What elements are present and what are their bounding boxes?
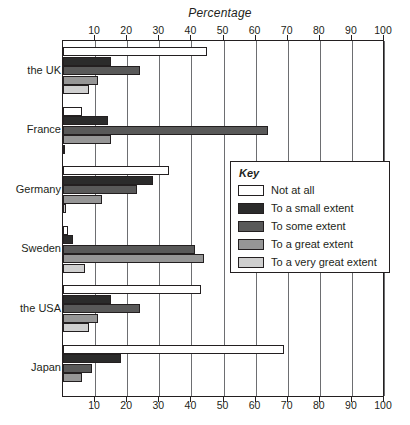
x-axis-tick: [383, 35, 384, 40]
legend-title: Key: [239, 167, 382, 179]
bar: [63, 85, 89, 94]
bar: [63, 373, 82, 382]
legend-swatch: [238, 257, 264, 268]
bar: [63, 285, 201, 294]
chart-title-text: Percentage: [188, 6, 251, 20]
category-label-the-uk: the UK: [27, 64, 61, 76]
x-axis-tick: [255, 397, 256, 402]
x-axis-tick: [319, 35, 320, 40]
legend-item: To a very great extent: [238, 254, 382, 270]
bar: [63, 126, 268, 135]
bar: [63, 245, 195, 254]
legend-item: To a great extent: [238, 236, 382, 252]
bar: [63, 166, 169, 175]
legend-swatch: [238, 221, 264, 232]
gridline: [191, 41, 192, 396]
bar: [63, 235, 73, 244]
category-label-germany: Germany: [16, 183, 61, 195]
bar: [63, 66, 140, 75]
legend-item: To some extent: [238, 218, 382, 234]
x-axis-tick: [255, 35, 256, 40]
category-label-france: France: [27, 123, 61, 135]
legend-items: Not at allTo a small extentTo some exten…: [238, 182, 382, 270]
bar: [63, 226, 68, 235]
legend-item: To a small extent: [238, 200, 382, 216]
bar: [63, 145, 65, 154]
legend-label: To a small extent: [271, 202, 354, 214]
x-axis-tick: [351, 397, 352, 402]
x-axis-tick: [126, 397, 127, 402]
x-axis-tick: [94, 397, 95, 402]
legend-label: To some extent: [271, 220, 346, 232]
bar: [63, 107, 82, 116]
gridline: [224, 41, 225, 396]
bar: [63, 314, 98, 323]
bar: [63, 295, 111, 304]
x-axis-tick: [319, 397, 320, 402]
legend-label: To a very great extent: [271, 256, 377, 268]
legend-swatch: [238, 203, 264, 214]
x-axis-tick: [287, 35, 288, 40]
x-axis-tick: [223, 397, 224, 402]
bar: [63, 135, 111, 144]
x-axis-tick: [158, 35, 159, 40]
bar: [63, 323, 89, 332]
x-axis-tick: [351, 35, 352, 40]
legend-item: Not at all: [238, 182, 382, 198]
bar: [63, 304, 140, 313]
category-label-sweden: Sweden: [21, 242, 61, 254]
x-axis-tick: [383, 397, 384, 402]
x-axis-tick: [190, 397, 191, 402]
bar: [63, 116, 108, 125]
bar: [63, 76, 98, 85]
bar: [63, 264, 85, 273]
x-axis-tick: [158, 397, 159, 402]
gridline: [159, 41, 160, 396]
legend-label: Not at all: [271, 184, 314, 196]
gridline: [95, 41, 96, 396]
bar: [63, 57, 111, 66]
chart-title: Percentage: [0, 6, 410, 20]
x-axis-tick: [126, 35, 127, 40]
bar: [63, 185, 137, 194]
bar: [63, 47, 207, 56]
bar: [63, 204, 66, 213]
legend-label: To a great extent: [271, 238, 353, 250]
bar: [63, 345, 284, 354]
bar-chart: Percentage 102030405060708090100 1020304…: [0, 0, 410, 425]
x-axis-tick: [223, 35, 224, 40]
bar: [63, 254, 204, 263]
legend-box: Key Not at allTo a small extentTo some e…: [230, 161, 390, 273]
gridline: [127, 41, 128, 396]
x-axis-tick: [287, 397, 288, 402]
bar: [63, 354, 121, 363]
legend-swatch: [238, 239, 264, 250]
legend-swatch: [238, 185, 264, 196]
category-label-the-usa: the USA: [20, 302, 61, 314]
x-axis-bottom-tick-labels: 102030405060708090100: [0, 399, 410, 413]
category-label-japan: Japan: [31, 361, 61, 373]
bar: [63, 176, 153, 185]
x-axis-tick: [94, 35, 95, 40]
bar: [63, 195, 102, 204]
x-axis-top-tick-labels: 102030405060708090100: [0, 24, 410, 38]
bar: [63, 364, 92, 373]
x-axis-tick: [190, 35, 191, 40]
